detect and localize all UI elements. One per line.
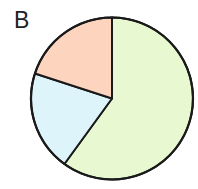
pie-slices (31, 17, 193, 179)
pie-chart (0, 0, 198, 189)
